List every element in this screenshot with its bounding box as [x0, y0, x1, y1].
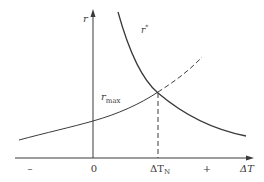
x-axis-label: ΔT	[239, 163, 255, 174]
r-star-label: r*	[141, 23, 148, 35]
r-star-curve	[118, 12, 246, 136]
diagram-canvas: r r* rmax – 0 ΔTN + ΔT	[0, 0, 264, 182]
r-max-curve	[19, 92, 158, 140]
x-axis-arrow-icon	[246, 156, 254, 161]
delta-tn-label: ΔTN	[150, 163, 170, 176]
r-max-curve-extension	[158, 57, 202, 92]
negative-label: –	[28, 163, 33, 174]
r-max-label: rmax	[101, 91, 121, 105]
origin-label: 0	[91, 163, 97, 174]
y-axis-arrow-icon	[91, 9, 96, 17]
y-axis-label: r	[83, 13, 89, 24]
positive-label: +	[203, 163, 211, 174]
